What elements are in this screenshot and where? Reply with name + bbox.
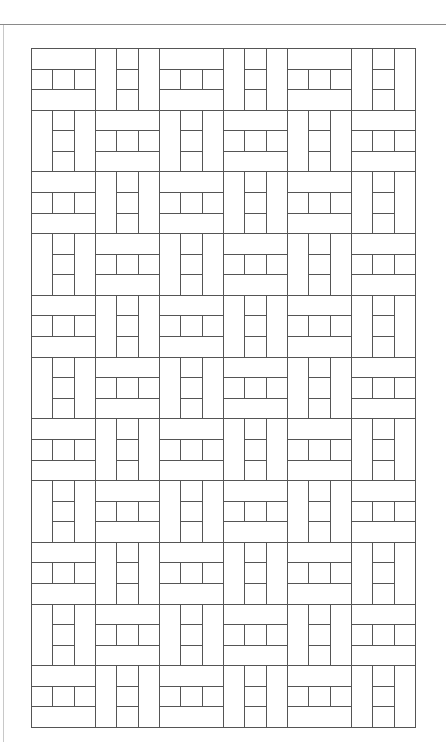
- horizontal-weave-block: [96, 604, 160, 666]
- vertical-weave-block: [96, 48, 160, 110]
- vertical-weave-block: [224, 172, 288, 234]
- vertical-weave-block: [351, 666, 415, 728]
- horizontal-weave-block: [224, 110, 288, 172]
- vertical-weave-block: [224, 419, 288, 481]
- vertical-weave-block: [160, 357, 224, 419]
- vertical-weave-block: [351, 295, 415, 357]
- horizontal-weave-block: [351, 110, 415, 172]
- vertical-weave-block: [160, 110, 224, 172]
- horizontal-weave-block: [96, 234, 160, 296]
- horizontal-weave-block: [32, 419, 96, 481]
- horizontal-weave-block: [351, 357, 415, 419]
- horizontal-weave-block: [32, 666, 96, 728]
- vertical-weave-block: [96, 666, 160, 728]
- vertical-weave-block: [96, 172, 160, 234]
- horizontal-weave-block: [287, 542, 351, 604]
- horizontal-weave-block: [160, 48, 224, 110]
- horizontal-weave-block: [224, 357, 288, 419]
- vertical-weave-block: [224, 666, 288, 728]
- horizontal-weave-block: [32, 48, 96, 110]
- horizontal-weave-block: [160, 419, 224, 481]
- horizontal-weave-block: [96, 481, 160, 543]
- vertical-weave-block: [96, 542, 160, 604]
- vertical-weave-block: [287, 234, 351, 296]
- vertical-weave-block: [96, 295, 160, 357]
- horizontal-weave-block: [224, 481, 288, 543]
- basketweave-pattern: [31, 48, 416, 728]
- vertical-weave-block: [351, 419, 415, 481]
- vertical-weave-block: [32, 234, 96, 296]
- weave-svg: [31, 48, 416, 728]
- vertical-weave-block: [160, 481, 224, 543]
- horizontal-weave-block: [287, 295, 351, 357]
- vertical-weave-block: [160, 234, 224, 296]
- horizontal-weave-block: [351, 234, 415, 296]
- vertical-weave-block: [287, 604, 351, 666]
- page-left-margin-rule: [3, 25, 4, 742]
- vertical-weave-block: [287, 110, 351, 172]
- vertical-weave-block: [351, 48, 415, 110]
- vertical-weave-block: [287, 481, 351, 543]
- horizontal-weave-block: [32, 542, 96, 604]
- vertical-weave-block: [351, 542, 415, 604]
- horizontal-weave-block: [160, 295, 224, 357]
- vertical-weave-block: [96, 419, 160, 481]
- horizontal-weave-block: [351, 604, 415, 666]
- horizontal-weave-block: [96, 110, 160, 172]
- vertical-weave-block: [224, 48, 288, 110]
- horizontal-weave-block: [32, 295, 96, 357]
- vertical-weave-block: [287, 357, 351, 419]
- vertical-weave-block: [32, 357, 96, 419]
- horizontal-weave-block: [351, 481, 415, 543]
- vertical-weave-block: [224, 542, 288, 604]
- horizontal-weave-block: [160, 172, 224, 234]
- horizontal-weave-block: [160, 666, 224, 728]
- vertical-weave-block: [224, 295, 288, 357]
- horizontal-weave-block: [287, 419, 351, 481]
- vertical-weave-block: [160, 604, 224, 666]
- horizontal-weave-block: [32, 172, 96, 234]
- horizontal-weave-block: [287, 172, 351, 234]
- vertical-weave-block: [32, 110, 96, 172]
- horizontal-weave-block: [224, 234, 288, 296]
- horizontal-weave-block: [96, 357, 160, 419]
- vertical-weave-block: [32, 481, 96, 543]
- horizontal-weave-block: [224, 604, 288, 666]
- horizontal-weave-block: [160, 542, 224, 604]
- horizontal-weave-block: [287, 666, 351, 728]
- vertical-weave-block: [32, 604, 96, 666]
- vertical-weave-block: [351, 172, 415, 234]
- horizontal-weave-block: [287, 48, 351, 110]
- page-top-rule: [0, 24, 446, 25]
